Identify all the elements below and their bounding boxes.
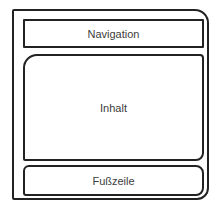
footer-label: Fußzeile: [92, 175, 134, 187]
navigation-section: Navigation: [23, 19, 204, 48]
content-section: Inhalt: [23, 54, 204, 161]
content-label: Inhalt: [100, 102, 127, 114]
navigation-label: Navigation: [88, 28, 140, 40]
footer-section: Fußzeile: [23, 165, 204, 196]
